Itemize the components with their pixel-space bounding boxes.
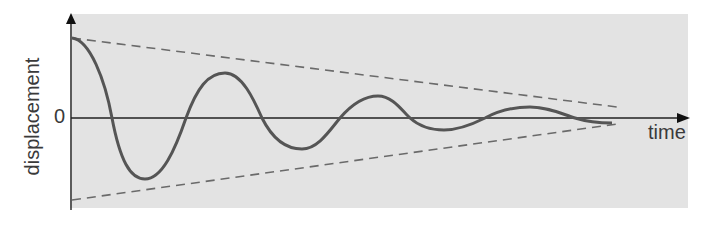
- origin-label: 0: [54, 105, 65, 128]
- y-axis-arrow-icon: [66, 13, 76, 24]
- upper-envelope: [72, 38, 617, 107]
- lower-envelope: [72, 124, 617, 200]
- displacement-curve: [72, 38, 612, 179]
- damped-oscillation-chart: [0, 0, 705, 230]
- x-axis-label: time: [648, 121, 686, 144]
- y-axis-label: displacement: [21, 47, 44, 187]
